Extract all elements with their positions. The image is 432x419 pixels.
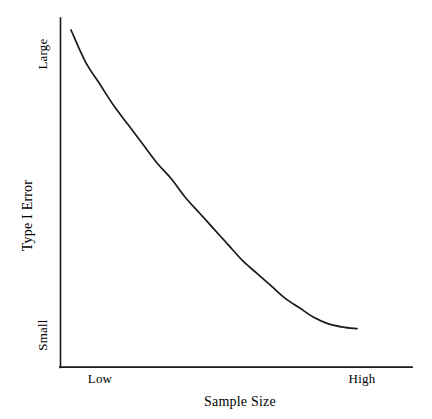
chart-background bbox=[0, 0, 432, 419]
x-axis-tick-high: High bbox=[334, 371, 390, 387]
plot-area bbox=[0, 0, 432, 419]
y-axis-tick-small: Small bbox=[35, 304, 51, 366]
chart-figure: Large Small Type I Error Low High Sample… bbox=[0, 0, 432, 419]
y-axis-tick-large: Large bbox=[35, 24, 51, 84]
x-axis-tick-low: Low bbox=[72, 371, 128, 387]
x-axis-title: Sample Size bbox=[175, 394, 305, 410]
y-axis-title: Type I Error bbox=[20, 170, 37, 262]
